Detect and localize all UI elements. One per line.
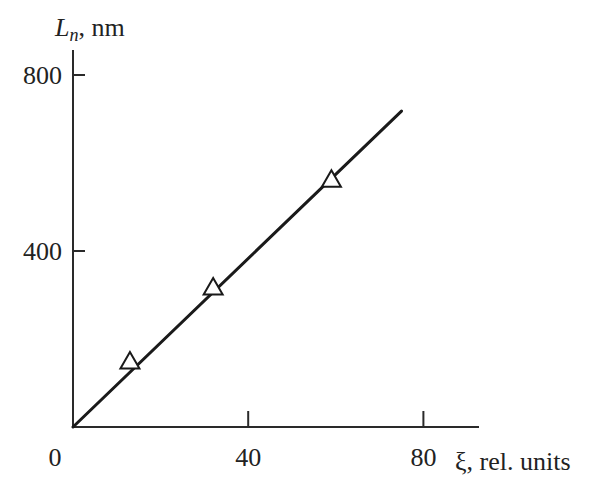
- x-tick-label: 40: [235, 443, 261, 472]
- x-axis-label: ξ, rel. units: [455, 447, 571, 476]
- y-axis-label: Ln, nm: [54, 13, 125, 45]
- y-tick-label: 800: [23, 61, 62, 90]
- y-tick-label: 400: [23, 237, 62, 266]
- chart: 04080400800 Ln, nm ξ, rel. units: [0, 0, 604, 493]
- x-tick-label: 0: [49, 443, 62, 472]
- y-label-main: L: [54, 13, 69, 42]
- x-tick-label: 80: [410, 443, 436, 472]
- y-label-rest: , nm: [78, 13, 124, 42]
- data-series: [73, 111, 402, 427]
- axis-labels: Ln, nm ξ, rel. units: [54, 13, 571, 476]
- triangle-marker-icon: [120, 352, 139, 369]
- y-label-sub: n: [69, 25, 78, 45]
- fit-line: [73, 111, 402, 427]
